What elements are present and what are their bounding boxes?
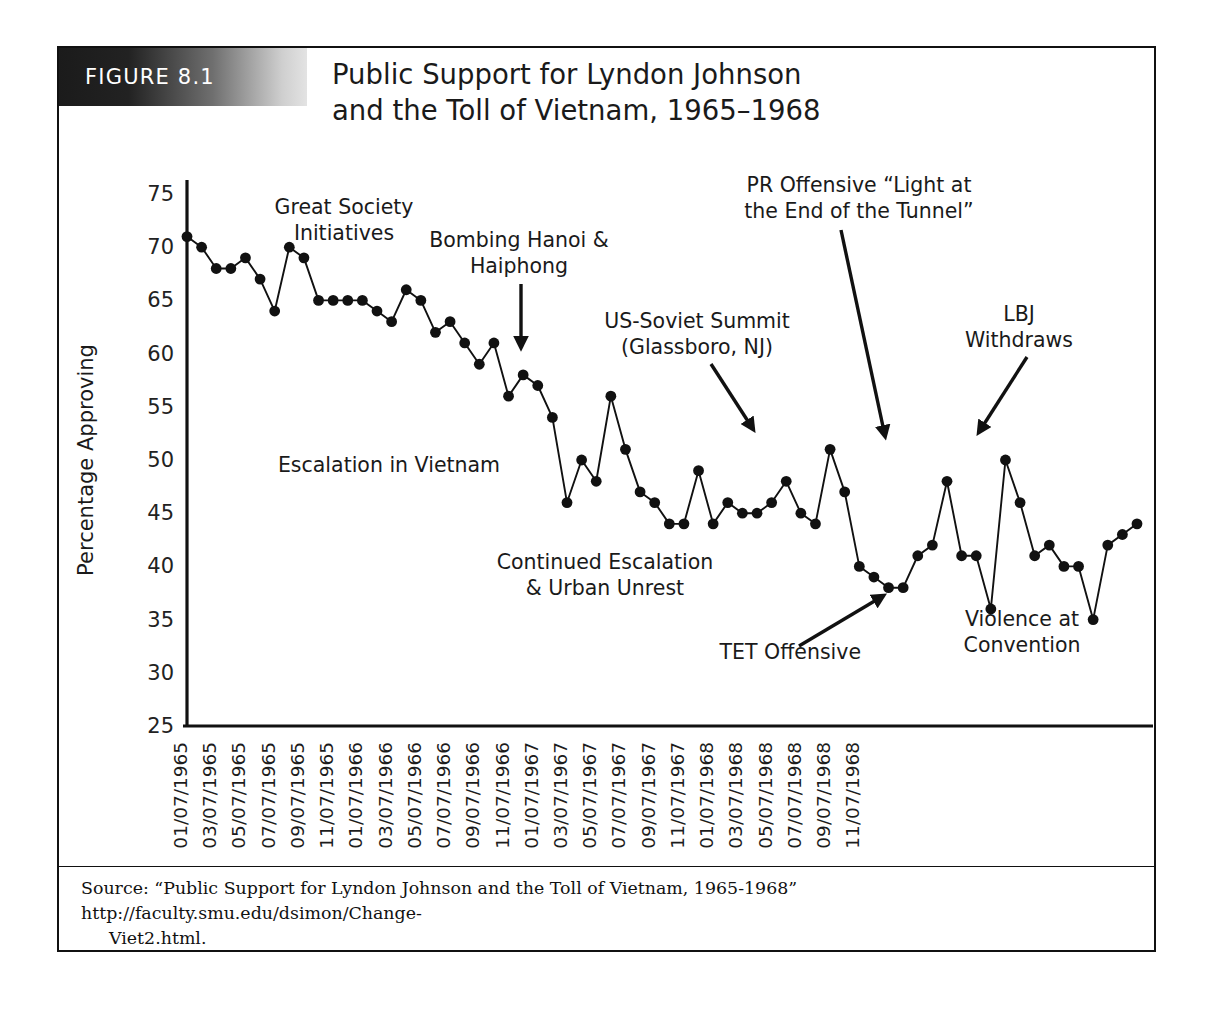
y-tick-label: 30 — [147, 661, 174, 685]
x-tick-label: 03/07/1968 — [725, 742, 746, 849]
x-tick-label: 09/07/1965 — [287, 742, 308, 849]
data-point — [401, 284, 412, 295]
data-point — [342, 295, 353, 306]
data-point — [649, 497, 660, 508]
x-tick-label: 09/07/1968 — [813, 742, 834, 849]
data-point — [722, 497, 733, 508]
annotation-continued-escalation: & Urban Unrest — [526, 576, 684, 600]
data-point — [503, 391, 514, 402]
data-point — [795, 508, 806, 519]
data-point — [299, 252, 310, 263]
figure-title-line-2: and the Toll of Vietnam, 1965–1968 — [332, 92, 1032, 128]
x-tick-label: 01/07/1968 — [696, 742, 717, 849]
annotation-great-society: Great Society — [275, 195, 414, 219]
data-point — [737, 508, 748, 519]
data-point — [693, 465, 704, 476]
data-point — [752, 508, 763, 519]
x-tick-label: 07/07/1965 — [258, 742, 279, 849]
data-point — [430, 327, 441, 338]
data-point — [810, 518, 821, 529]
data-point — [708, 518, 719, 529]
data-point — [562, 497, 573, 508]
data-point — [576, 455, 587, 466]
data-point — [532, 380, 543, 391]
x-tick-label: 07/07/1967 — [608, 742, 629, 849]
data-point — [971, 550, 982, 561]
source-note-continuation: Viet2.html. — [109, 926, 1131, 951]
x-tick-label: 05/07/1967 — [579, 742, 600, 849]
x-tick-label: 07/07/1966 — [433, 742, 454, 849]
annotation-arrow — [979, 357, 1027, 432]
data-point — [489, 338, 500, 349]
y-tick-label: 55 — [147, 395, 174, 419]
data-point — [474, 359, 485, 370]
data-point — [635, 487, 646, 498]
y-tick-label: 40 — [147, 554, 174, 578]
annotation-arrow — [711, 364, 753, 429]
data-point — [1117, 529, 1128, 540]
x-tick-label: 11/07/1968 — [842, 742, 863, 849]
data-point — [415, 295, 426, 306]
data-point — [825, 444, 836, 455]
y-tick-label: 35 — [147, 608, 174, 632]
data-point — [196, 242, 207, 253]
y-tick-label: 60 — [147, 342, 174, 366]
annotation-violence-convention: Violence at — [965, 607, 1079, 631]
data-point — [869, 572, 880, 583]
data-point — [328, 295, 339, 306]
annotation-bombing: Bombing Hanoi & — [429, 228, 609, 252]
data-point — [927, 540, 938, 551]
data-point — [547, 412, 558, 423]
x-tick-label: 05/07/1968 — [755, 742, 776, 849]
figure-title: Public Support for Lyndon Johnson and th… — [332, 56, 1032, 129]
data-point — [679, 518, 690, 529]
data-point — [591, 476, 602, 487]
annotation-lbj-withdraws: LBJ — [1003, 302, 1035, 326]
annotation-tet-offensive: TET Offensive — [719, 640, 862, 664]
x-tick-label: 01/07/1967 — [521, 742, 542, 849]
x-tick-label: 01/07/1965 — [170, 742, 191, 849]
data-point — [605, 391, 616, 402]
data-point — [255, 274, 266, 285]
data-point — [269, 306, 280, 317]
data-point — [912, 550, 923, 561]
data-point — [883, 582, 894, 593]
x-tick-label: 07/07/1968 — [784, 742, 805, 849]
annotation-continued-escalation: Continued Escalation — [497, 550, 714, 574]
annotation-arrow — [799, 596, 883, 646]
y-tick-label: 50 — [147, 448, 174, 472]
data-point — [313, 295, 324, 306]
annotation-pr-offensive: PR Offensive “Light at — [747, 173, 972, 197]
annotation-great-society: Initiatives — [294, 221, 394, 245]
x-tick-label: 11/07/1966 — [492, 742, 513, 849]
annotation-lbj-withdraws: Withdraws — [965, 328, 1073, 352]
data-point — [386, 316, 397, 327]
figure-number-tab: FIGURE 8.1 — [59, 48, 307, 106]
x-tick-label: 09/07/1967 — [638, 742, 659, 849]
chart-plot-area: 2530354045505560657075Percentage Approvi… — [59, 164, 1154, 904]
source-note-main: Source: “Public Support for Lyndon Johns… — [81, 878, 797, 923]
y-tick-label: 70 — [147, 235, 174, 259]
annotation-us-soviet-summit: (Glassboro, NJ) — [621, 335, 773, 359]
x-tick-label: 05/07/1966 — [404, 742, 425, 849]
x-tick-label: 09/07/1966 — [462, 742, 483, 849]
data-point — [357, 295, 368, 306]
data-point — [240, 252, 251, 263]
figure-number-label: FIGURE 8.1 — [85, 65, 215, 89]
data-point — [225, 263, 236, 274]
data-point — [445, 316, 456, 327]
annotation-bombing: Haiphong — [470, 254, 568, 278]
y-tick-label: 65 — [147, 288, 174, 312]
data-point — [1000, 455, 1011, 466]
data-point — [1029, 550, 1040, 561]
figure-box: FIGURE 8.1 Public Support for Lyndon Joh… — [57, 46, 1156, 952]
data-point — [898, 582, 909, 593]
annotation-us-soviet-summit: US-Soviet Summit — [604, 309, 790, 333]
y-tick-label: 75 — [147, 182, 174, 206]
data-point — [839, 487, 850, 498]
x-tick-label: 03/07/1965 — [199, 742, 220, 849]
source-note: Source: “Public Support for Lyndon Johns… — [81, 876, 1131, 952]
data-point — [1088, 614, 1099, 625]
data-point — [1015, 497, 1026, 508]
x-tick-label: 03/07/1966 — [375, 742, 396, 849]
